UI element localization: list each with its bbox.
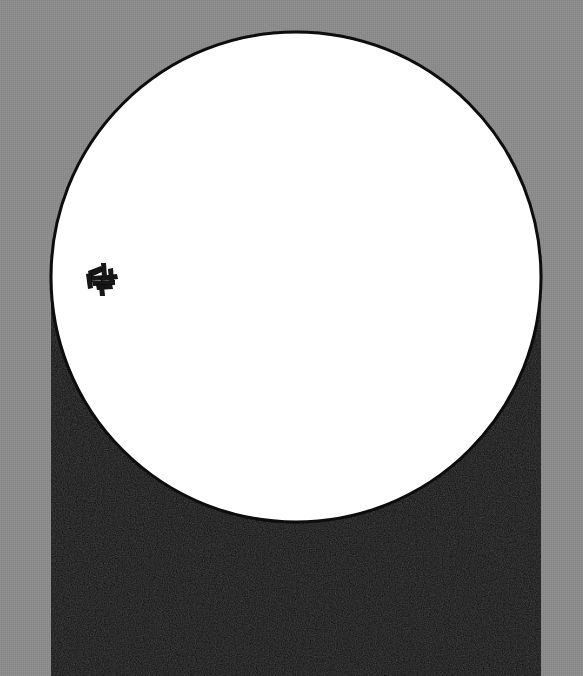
composition-canvas (0, 0, 583, 676)
vector-artwork (0, 0, 583, 676)
artboard (0, 0, 583, 676)
white-circle (51, 32, 541, 522)
